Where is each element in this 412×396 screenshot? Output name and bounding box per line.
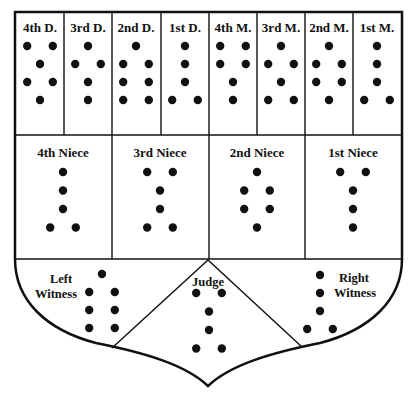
dot — [111, 306, 119, 314]
dots-left-witness — [85, 270, 119, 332]
cell-label-3rd-d: 3rd D. — [70, 20, 105, 35]
dot — [349, 205, 357, 213]
dot — [264, 60, 272, 68]
cell-label-2nd-m: 2nd M. — [309, 20, 349, 35]
dot — [119, 78, 127, 86]
cell-label-3rd-m: 3rd M. — [262, 20, 300, 35]
dot — [23, 42, 31, 50]
dot — [373, 60, 381, 68]
dot — [85, 288, 93, 296]
dot — [205, 307, 213, 315]
cell-label-3rd-niece: 3rd Niece — [133, 145, 186, 160]
dot — [329, 325, 337, 333]
dot — [303, 325, 311, 333]
dot — [36, 96, 44, 104]
dots-top-7 — [360, 42, 394, 104]
dot — [168, 96, 176, 104]
cell-label-1st-d: 1st D. — [169, 20, 201, 35]
dot — [218, 344, 226, 352]
dot — [192, 344, 200, 352]
dot — [312, 60, 320, 68]
dot — [253, 223, 261, 231]
dot — [253, 168, 261, 176]
left-witness-label-line2: Witness — [35, 287, 77, 301]
dot — [145, 96, 153, 104]
dot — [277, 78, 285, 86]
dots-middle-2 — [240, 168, 274, 232]
dot — [169, 223, 177, 231]
dot — [338, 60, 346, 68]
dots-middle-3 — [336, 168, 370, 232]
dots-top-0 — [23, 42, 57, 104]
judge-label: Judge — [192, 275, 224, 289]
dot — [49, 78, 57, 86]
dot — [349, 186, 357, 194]
dot — [145, 78, 153, 86]
dot — [71, 60, 79, 68]
right-witness-label-line2: Witness — [334, 286, 376, 300]
dot — [325, 42, 333, 50]
dot — [336, 168, 344, 176]
dot — [192, 289, 200, 297]
dots-middle-0 — [46, 168, 80, 232]
dot — [277, 42, 285, 50]
dot — [119, 96, 127, 104]
cell-label-4th-d: 4th D. — [23, 20, 57, 35]
dot — [59, 205, 67, 213]
cell-label-2nd-niece: 2nd Niece — [230, 145, 285, 160]
dot — [85, 306, 93, 314]
dots-top-4 — [216, 42, 250, 104]
dot — [97, 60, 105, 68]
dot — [23, 78, 31, 86]
dot — [218, 289, 226, 297]
bottom-labels: Left Witness Judge Right Witness — [35, 271, 376, 301]
dot — [84, 78, 92, 86]
dot — [205, 326, 213, 334]
cell-label-4th-niece: 4th Niece — [37, 145, 89, 160]
dot — [98, 270, 106, 278]
dot — [362, 168, 370, 176]
dot — [242, 42, 250, 50]
dot — [290, 60, 298, 68]
middle-row-labels: 4th Niece 3rd Niece 2nd Niece 1st Niece — [37, 145, 378, 160]
dot — [181, 78, 189, 86]
dot — [360, 96, 368, 104]
dot — [290, 96, 298, 104]
dot — [84, 42, 92, 50]
dot — [111, 324, 119, 332]
dot — [36, 60, 44, 68]
dot — [84, 96, 92, 104]
dot — [266, 205, 274, 213]
dot — [181, 42, 189, 50]
dot — [216, 42, 224, 50]
dot — [143, 223, 151, 231]
dot — [386, 96, 394, 104]
dot — [240, 205, 248, 213]
dots-middle-1 — [143, 168, 177, 232]
dot — [181, 60, 189, 68]
dot — [49, 42, 57, 50]
dot — [59, 186, 67, 194]
dot — [111, 288, 119, 296]
dot — [264, 96, 272, 104]
dots-top-2 — [119, 42, 153, 104]
dot — [216, 60, 224, 68]
dots-top-3 — [168, 42, 202, 104]
dot — [46, 223, 54, 231]
dot — [156, 205, 164, 213]
cell-label-1st-niece: 1st Niece — [328, 145, 378, 160]
dot — [145, 60, 153, 68]
dot — [242, 60, 250, 68]
dot — [59, 168, 67, 176]
dot — [169, 168, 177, 176]
dot — [373, 42, 381, 50]
dots-right-witness — [303, 271, 337, 333]
right-witness-label-line1: Right — [339, 271, 370, 285]
cell-label-2nd-d: 2nd D. — [118, 20, 155, 35]
dot — [72, 223, 80, 231]
cell-label-4th-m: 4th M. — [215, 20, 252, 35]
dots-top-5 — [264, 42, 298, 104]
dot — [143, 168, 151, 176]
dot — [229, 78, 237, 86]
dots-top-1 — [71, 42, 105, 104]
